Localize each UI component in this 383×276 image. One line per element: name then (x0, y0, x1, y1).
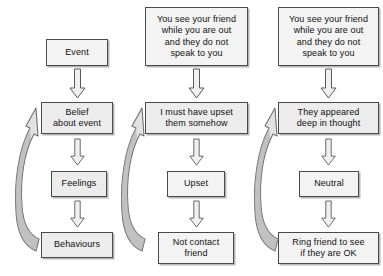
cbt-model-diagram: Event Belief about event Feelings Behavi… (0, 0, 383, 276)
feedback-loop-arrow-neutral (245, 104, 281, 256)
node-feelings: Feelings (51, 171, 107, 197)
arrow-thought2-to-emotion2 (320, 139, 337, 166)
arrow-thought1-to-emotion1 (188, 139, 205, 166)
node-event: Event (46, 39, 108, 66)
arrow-situation2-to-thought2 (320, 69, 337, 99)
arrow-situation1-to-thought1 (188, 69, 205, 99)
node-situation-1: You see your friend while you are out an… (145, 7, 248, 66)
arrow-event-to-belief (69, 69, 86, 99)
node-behaviour-1: Not contact friend (158, 232, 234, 264)
node-behaviours: Behaviours (41, 232, 113, 258)
node-emotion-1: Upset (167, 171, 225, 197)
node-emotion-2: Neutral (299, 171, 359, 197)
arrow-feelings-to-behaviours (69, 201, 86, 228)
arrow-belief-to-feelings (69, 139, 86, 166)
node-thought-1: I must have upset them somehow (145, 102, 248, 134)
node-behaviour-2: Ring friend to see if they are OK (278, 232, 379, 264)
node-thought-2: They appeared deep in thought (278, 102, 379, 134)
arrow-emotion2-to-behaviour2 (320, 201, 337, 228)
feedback-loop-arrow-generic (6, 104, 42, 256)
feedback-loop-arrow-negative (112, 104, 148, 256)
arrow-emotion1-to-behaviour1 (188, 201, 205, 228)
node-situation-2: You see your friend while you are out an… (278, 7, 379, 66)
node-belief: Belief about event (41, 102, 113, 134)
